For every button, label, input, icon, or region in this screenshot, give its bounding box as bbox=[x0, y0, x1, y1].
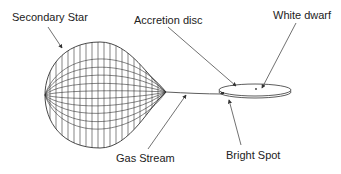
binary-star-diagram bbox=[0, 0, 341, 174]
accretion-disc-shape bbox=[219, 84, 291, 98]
secondary-star-shape bbox=[45, 30, 166, 160]
accretion-disc-label: Accretion disc bbox=[134, 15, 202, 26]
bright-spot-pointer bbox=[229, 100, 241, 145]
white-dwarf-label: White dwarf bbox=[273, 10, 331, 21]
bright-spot-label: Bright Spot bbox=[226, 150, 280, 161]
accretion-disc-pointer bbox=[168, 27, 236, 86]
gas-stream-label: Gas Stream bbox=[116, 153, 175, 164]
gas-stream-line bbox=[166, 92, 224, 94]
white-dwarf-dot bbox=[255, 88, 257, 90]
bright-spot-mark bbox=[221, 92, 224, 94]
white-dwarf-pointer bbox=[262, 23, 296, 88]
secondary-star-pointer bbox=[48, 27, 62, 48]
secondary-star-label: Secondary Star bbox=[12, 12, 88, 23]
